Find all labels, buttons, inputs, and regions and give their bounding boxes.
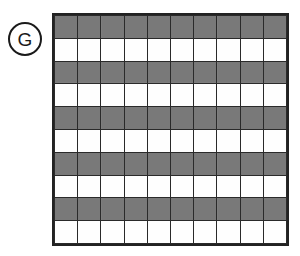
grid-cell-blank <box>217 221 240 244</box>
grid-cell-shaded <box>101 16 124 39</box>
grid-cell-shaded <box>194 152 217 175</box>
grid-cell-blank <box>217 175 240 198</box>
circled-letter-label: G <box>8 22 42 56</box>
grid-cell-shaded <box>194 16 217 39</box>
grid-cell-blank <box>263 175 286 198</box>
grid-cell-blank <box>101 38 124 61</box>
grid-cell-blank <box>263 38 286 61</box>
grid-cell-shaded <box>124 152 147 175</box>
grid-cell-blank <box>170 221 193 244</box>
grid-cell-blank <box>55 175 78 198</box>
grid-cell-blank <box>170 38 193 61</box>
grid-cell-blank <box>124 129 147 152</box>
grid-cell-shaded <box>55 61 78 84</box>
grid-cell-shaded <box>55 107 78 130</box>
grid-cell-blank <box>194 38 217 61</box>
grid-cell-shaded <box>217 61 240 84</box>
shaded-grid <box>52 13 289 246</box>
grid-cell-shaded <box>147 152 170 175</box>
grid-cell-shaded <box>170 152 193 175</box>
grid-cell-shaded <box>170 198 193 221</box>
grid-cell-blank <box>124 221 147 244</box>
grid-cell-shaded <box>263 16 286 39</box>
grid-cell-shaded <box>194 107 217 130</box>
grid-cell-blank <box>147 175 170 198</box>
grid-row <box>55 61 287 84</box>
grid-cell-blank <box>194 221 217 244</box>
grid-cell-shaded <box>217 107 240 130</box>
grid-row <box>55 38 287 61</box>
grid-cell-shaded <box>147 16 170 39</box>
grid-cell-shaded <box>78 61 101 84</box>
grid-cell-shaded <box>101 61 124 84</box>
grid-cell-shaded <box>124 107 147 130</box>
grid-cell-shaded <box>240 16 263 39</box>
grid-cell-blank <box>147 221 170 244</box>
grid-cell-shaded <box>55 198 78 221</box>
grid-cell-shaded <box>78 107 101 130</box>
grid-cell-blank <box>101 175 124 198</box>
grid-cell-blank <box>217 38 240 61</box>
grid-cell-shaded <box>263 198 286 221</box>
grid-row <box>55 221 287 244</box>
grid-cell-shaded <box>240 107 263 130</box>
grid-cell-blank <box>263 84 286 107</box>
grid-cell-blank <box>78 84 101 107</box>
grid-row <box>55 175 287 198</box>
grid-cell-shaded <box>101 198 124 221</box>
figure-root: G <box>0 0 300 256</box>
grid-cell-shaded <box>101 152 124 175</box>
grid-cell-blank <box>170 129 193 152</box>
grid-cell-blank <box>240 221 263 244</box>
grid-cell-blank <box>240 129 263 152</box>
grid-row <box>55 129 287 152</box>
grid-row <box>55 84 287 107</box>
grid-cell-shaded <box>147 198 170 221</box>
grid-cell-blank <box>194 129 217 152</box>
grid-cell-shaded <box>55 152 78 175</box>
grid-cell-blank <box>194 84 217 107</box>
grid-cell-shaded <box>263 107 286 130</box>
grid-cell-shaded <box>170 107 193 130</box>
grid-cell-blank <box>55 84 78 107</box>
grid-cell-shaded <box>170 16 193 39</box>
grid-cell-blank <box>55 38 78 61</box>
grid-cell-blank <box>263 221 286 244</box>
grid-cell-blank <box>78 129 101 152</box>
grid-body <box>55 16 287 244</box>
grid-cell-shaded <box>217 152 240 175</box>
grid-cell-blank <box>124 84 147 107</box>
grid-cell-blank <box>124 38 147 61</box>
grid-cell-shaded <box>240 198 263 221</box>
grid-cell-blank <box>78 175 101 198</box>
grid-cell-blank <box>78 38 101 61</box>
grid-cell-shaded <box>124 61 147 84</box>
circled-letter-label-text: G <box>18 29 33 48</box>
grid-row <box>55 107 287 130</box>
grid-row <box>55 152 287 175</box>
grid-cell-shaded <box>240 152 263 175</box>
grid-cell-blank <box>147 84 170 107</box>
grid-cell-blank <box>78 221 101 244</box>
grid-cell-shaded <box>78 152 101 175</box>
grid-cell-blank <box>240 38 263 61</box>
grid-cell-shaded <box>240 61 263 84</box>
grid-cell-shaded <box>263 152 286 175</box>
grid-cell-blank <box>170 175 193 198</box>
grid-cell-blank <box>55 221 78 244</box>
grid-cell-blank <box>240 175 263 198</box>
grid-cell-shaded <box>147 107 170 130</box>
grid-cell-shaded <box>78 16 101 39</box>
grid-cell-shaded <box>124 198 147 221</box>
grid-cell-shaded <box>124 16 147 39</box>
grid-cell-shaded <box>217 16 240 39</box>
grid-cell-blank <box>55 129 78 152</box>
grid-cell-blank <box>194 175 217 198</box>
grid-cell-shaded <box>194 61 217 84</box>
grid-cell-shaded <box>147 61 170 84</box>
grid-cell-shaded <box>55 16 78 39</box>
grid-cell-shaded <box>78 198 101 221</box>
grid-cell-blank <box>147 38 170 61</box>
grid-cell-blank <box>217 129 240 152</box>
grid-cell-blank <box>147 129 170 152</box>
